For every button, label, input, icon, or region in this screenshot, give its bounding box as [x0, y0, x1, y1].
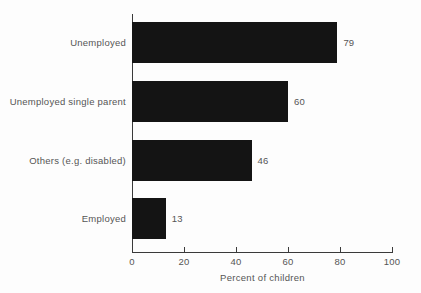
bar	[132, 22, 337, 63]
category-label: Unemployed	[0, 37, 126, 48]
x-tick-label: 100	[384, 256, 400, 267]
x-tick-label: 0	[129, 256, 134, 267]
bar-value-label: 79	[343, 37, 354, 48]
bar-value-label: 13	[172, 213, 183, 224]
x-tick-label: 40	[231, 256, 242, 267]
x-axis-line	[132, 252, 393, 253]
bar-value-label: 46	[258, 155, 269, 166]
bar	[132, 81, 288, 122]
x-tick	[288, 247, 289, 252]
x-tick	[132, 247, 133, 252]
x-tick-label: 20	[179, 256, 190, 267]
bar-value-label: 60	[294, 96, 305, 107]
x-tick	[184, 247, 185, 252]
x-tick	[340, 247, 341, 252]
category-label: Others (e.g. disabled)	[0, 155, 126, 166]
x-tick	[392, 247, 393, 252]
x-tick-label: 80	[335, 256, 346, 267]
x-tick-label: 60	[283, 256, 294, 267]
category-label: Employed	[0, 213, 126, 224]
x-tick	[236, 247, 237, 252]
bar	[132, 140, 252, 181]
category-label: Unemployed single parent	[0, 96, 126, 107]
bar	[132, 198, 166, 239]
x-axis-title: Percent of children	[132, 272, 393, 283]
bar-chart: 79Unemployed60Unemployed single parent46…	[0, 0, 421, 293]
